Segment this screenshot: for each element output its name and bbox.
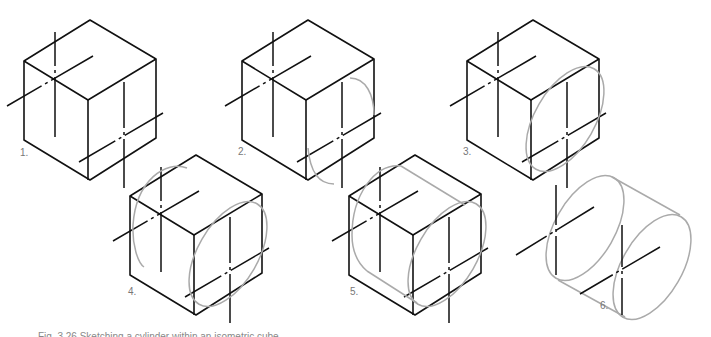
step-label-5: 5. [350, 286, 358, 297]
step-6-cylinder [516, 163, 707, 332]
step-label-1: 1. [20, 147, 28, 158]
step-label-3: 3. [463, 146, 471, 157]
step-label-2: 2. [238, 146, 246, 157]
step-3-cube [450, 20, 620, 188]
figure-caption: Fig. 3.26 Sketching a cylinder within an… [38, 330, 279, 337]
step-1-cube [7, 20, 163, 188]
step-4-cube [113, 155, 283, 323]
step-label-6: 6. [600, 300, 608, 311]
step-2-cube [225, 20, 381, 188]
step-5-cube [332, 155, 502, 323]
step-label-4: 4. [128, 286, 136, 297]
